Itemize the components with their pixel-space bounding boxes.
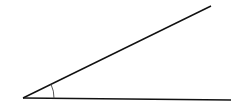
angle-arc: [51, 84, 54, 98]
angle-diagram: [0, 0, 251, 111]
upper-ray: [23, 6, 211, 98]
